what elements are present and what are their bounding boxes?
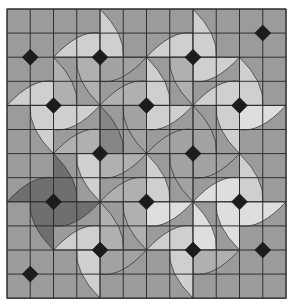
board-cell[interactable]: [123, 33, 147, 57]
board-cell[interactable]: [216, 9, 240, 33]
board-cell[interactable]: [240, 274, 264, 298]
board-cell[interactable]: [147, 274, 171, 298]
board-cell[interactable]: [263, 57, 287, 81]
board-cell[interactable]: [7, 130, 31, 154]
board-cell[interactable]: [54, 250, 78, 274]
board-cell[interactable]: [263, 178, 287, 202]
board-cell[interactable]: [77, 9, 101, 33]
board-cell[interactable]: [7, 154, 31, 178]
board-cell[interactable]: [123, 274, 147, 298]
board-cell[interactable]: [240, 130, 264, 154]
board-cell[interactable]: [216, 33, 240, 57]
board-cell[interactable]: [147, 250, 171, 274]
board-cell[interactable]: [263, 154, 287, 178]
board-cell[interactable]: [7, 202, 31, 226]
board-cell[interactable]: [7, 9, 31, 33]
board-cell[interactable]: [263, 274, 287, 298]
board-cell[interactable]: [147, 9, 171, 33]
board-cell[interactable]: [54, 9, 78, 33]
board-cell[interactable]: [170, 9, 194, 33]
board-cell[interactable]: [263, 130, 287, 154]
board-cell[interactable]: [7, 105, 31, 129]
board-cell[interactable]: [193, 274, 217, 298]
board-cell[interactable]: [123, 9, 147, 33]
board-cell[interactable]: [30, 154, 54, 178]
game-board[interactable]: [0, 0, 291, 305]
board-cell[interactable]: [7, 226, 31, 250]
board-cell[interactable]: [263, 81, 287, 105]
board-cell[interactable]: [30, 9, 54, 33]
board-cell[interactable]: [216, 274, 240, 298]
board-cell[interactable]: [54, 274, 78, 298]
board-cell[interactable]: [100, 274, 124, 298]
pinwheel-puzzle-grid[interactable]: [0, 0, 291, 305]
